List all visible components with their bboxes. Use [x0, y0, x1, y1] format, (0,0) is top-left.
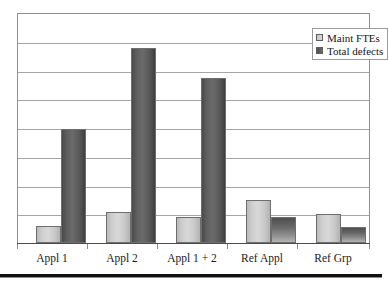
x-label-appl-1-2: Appl 1 + 2 — [157, 250, 227, 266]
legend-swatch-total-defects-icon — [316, 47, 323, 54]
x-label-ref-appl: Ref Appl — [227, 250, 297, 266]
legend: Maint FTEs Total defects — [312, 28, 388, 60]
bar-total-defects-appl-1[interactable] — [61, 129, 86, 244]
bar-total-defects-ref-appl[interactable] — [271, 217, 296, 243]
x-axis-tick — [17, 244, 18, 249]
x-label-appl-2: Appl 2 — [87, 250, 157, 266]
legend-label-maint-ftes: Maint FTEs — [327, 32, 380, 44]
x-axis-tick — [369, 244, 370, 249]
x-label-appl-1: Appl 1 — [17, 250, 87, 266]
legend-label-total-defects: Total defects — [327, 45, 383, 57]
bar-total-defects-appl-2[interactable] — [131, 48, 156, 243]
bar-total-defects-appl-1-2[interactable] — [201, 78, 226, 243]
x-axis-tick — [87, 244, 88, 249]
bar-maint-ftes-appl-1-2[interactable] — [176, 217, 201, 243]
bar-total-defects-ref-grp[interactable] — [341, 227, 366, 243]
legend-item-maint-ftes[interactable]: Maint FTEs — [316, 31, 383, 44]
x-axis-tick — [297, 244, 298, 249]
x-axis-labels: Appl 1 Appl 2 Appl 1 + 2 Ref Appl Ref Gr… — [17, 250, 370, 270]
x-axis-tick — [227, 244, 228, 249]
x-axis-tick — [157, 244, 158, 249]
bar-maint-ftes-appl-1[interactable] — [36, 226, 61, 243]
x-axis-line — [17, 243, 370, 244]
legend-swatch-maint-ftes-icon — [316, 34, 323, 41]
bar-maint-ftes-appl-2[interactable] — [106, 212, 131, 243]
x-label-ref-grp: Ref Grp — [297, 250, 369, 266]
bar-maint-ftes-ref-appl[interactable] — [246, 200, 271, 243]
legend-item-total-defects[interactable]: Total defects — [316, 44, 383, 57]
plot-area: Maint FTEs Total defects — [17, 13, 370, 244]
bar-maint-ftes-ref-grp[interactable] — [316, 214, 341, 243]
bottom-divider-shadow — [0, 277, 382, 278]
